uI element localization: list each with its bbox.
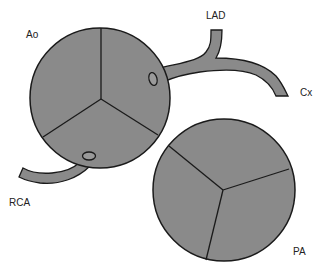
label-pa: PA: [293, 247, 306, 257]
diagram-canvas: Ao LAD Cx RCA PA: [0, 0, 323, 268]
label-ao: Ao: [26, 30, 38, 40]
valve-diagram: [0, 0, 323, 268]
label-lad: LAD: [206, 11, 225, 21]
label-cx: Cx: [300, 88, 312, 98]
lad-cx-vessel: [160, 30, 288, 96]
pulmonary-valve: [153, 119, 295, 261]
right-coronary-ostium: [83, 152, 96, 160]
label-rca: RCA: [9, 198, 30, 208]
aortic-valve: [30, 28, 170, 168]
